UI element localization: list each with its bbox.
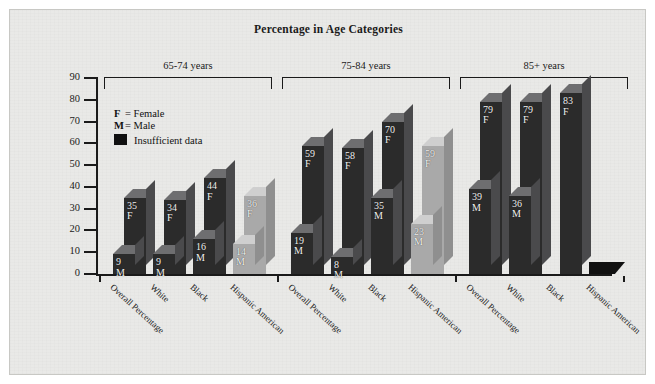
bar: 9M	[153, 245, 184, 274]
bar-value: 35	[374, 200, 384, 211]
y-tick	[84, 251, 96, 253]
bar-sex-marker: M	[334, 269, 343, 280]
bar-side-face	[313, 215, 322, 265]
bar-label: 23M	[414, 227, 424, 248]
bar-value: 16	[196, 241, 206, 252]
x-axis-label: Black	[188, 282, 210, 303]
bar-sex-marker: M	[116, 267, 125, 278]
bar-label: 9M	[156, 257, 165, 278]
bar-sex-marker: F	[523, 114, 529, 125]
x-tick	[99, 276, 101, 282]
bar-sex-marker: M	[156, 267, 165, 278]
bar-label: 83F	[563, 96, 573, 117]
x-axis-label: Black	[366, 282, 388, 303]
bar-sex-marker: M	[512, 208, 521, 219]
bar-value: 35	[127, 200, 137, 211]
bar-label: 79F	[523, 105, 533, 126]
bar-sex-marker: F	[385, 134, 391, 145]
bar-value: 39	[472, 191, 482, 202]
y-tick	[84, 186, 96, 188]
legend-row-male: M= Male	[114, 120, 202, 132]
x-axis-label: Hispanic American	[406, 282, 464, 336]
y-tick	[84, 208, 96, 210]
bar-label: 36F	[247, 199, 257, 220]
y-tick-label: 10	[58, 245, 80, 256]
bar-side-face	[324, 128, 333, 265]
y-axis-line	[96, 77, 98, 275]
bar-sex-marker: F	[425, 158, 431, 169]
x-axis-label: White	[148, 282, 171, 304]
bar-sex-marker: F	[305, 158, 311, 169]
bar-side-face	[491, 171, 500, 265]
bar-sex-marker: F	[127, 210, 133, 221]
y-tick-label: 50	[58, 158, 80, 169]
bar-label: 34F	[167, 203, 177, 224]
bar-label: 44F	[207, 181, 217, 202]
bar-side-face	[542, 84, 551, 265]
bar-label: 58F	[345, 151, 355, 172]
bar: 14M	[233, 235, 264, 274]
group-label: 75-84 years	[282, 60, 450, 71]
bar-value: 34	[167, 202, 177, 213]
bar-sex-marker: F	[483, 114, 489, 125]
bar-sex-marker: F	[345, 160, 351, 171]
bar: 23M	[411, 215, 442, 274]
legend-insufficient-label: Insufficient data	[134, 135, 202, 146]
bar: 8M	[331, 248, 362, 274]
bar-value: 59	[425, 148, 435, 159]
bar-sex-marker: F	[247, 208, 253, 219]
bar-label: 59F	[305, 149, 315, 170]
bar-front-face	[560, 93, 582, 274]
bar-side-face	[433, 206, 442, 265]
legend-row-female: F= Female	[114, 108, 202, 120]
bar-label: 8M	[334, 260, 343, 281]
y-tick-label: 60	[58, 136, 80, 147]
group-bracket	[460, 77, 628, 89]
bar-sex-marker: F	[167, 212, 173, 223]
y-tick	[84, 77, 96, 79]
y-tick	[84, 164, 96, 166]
chart-legend: F= Female M= Male Insufficient data	[114, 108, 202, 147]
legend-row-insufficient: Insufficient data	[114, 134, 202, 147]
y-tick-label: 90	[58, 71, 80, 82]
x-axis-label: White	[504, 282, 527, 304]
x-tick	[277, 276, 279, 282]
insufficient-data-marker	[589, 262, 625, 274]
legend-male-label: = Male	[125, 120, 155, 131]
bar-value: 44	[207, 180, 217, 191]
bar-side-face	[393, 180, 402, 265]
bar-side-face	[266, 178, 275, 265]
group-label: 85+ years	[460, 60, 628, 71]
bar-label: 35M	[374, 201, 384, 222]
bar-label: 36M	[512, 199, 522, 220]
bar-sex-marker: M	[414, 236, 423, 247]
legend-male-key: M	[114, 120, 125, 132]
y-tick-label: 20	[58, 223, 80, 234]
bar: 83F	[560, 84, 591, 274]
bar-side-face	[444, 128, 453, 265]
x-axis-line	[96, 274, 612, 276]
x-axis-label: Black	[544, 282, 566, 303]
bar-value: 70	[385, 124, 395, 135]
bar-sex-marker: M	[236, 256, 245, 267]
insufficient-data-swatch-icon	[114, 134, 127, 145]
y-tick-label: 80	[58, 93, 80, 104]
y-tick-label: 30	[58, 202, 80, 213]
y-tick	[84, 273, 96, 275]
bar-value: 23	[414, 226, 424, 237]
bar-label: 19M	[294, 236, 304, 257]
y-tick-label: 40	[58, 180, 80, 191]
bar-side-face	[215, 221, 224, 265]
bar-value: 8	[334, 259, 339, 270]
bar-value: 36	[247, 198, 257, 209]
bar-side-face	[531, 178, 540, 265]
bar-side-face	[582, 75, 591, 265]
bar-label: 14M	[236, 247, 246, 268]
bar-label: 39M	[472, 192, 482, 213]
bar-value: 79	[523, 104, 533, 115]
bar-value: 83	[563, 95, 573, 106]
bar-sex-marker: M	[196, 252, 205, 263]
bar: 35M	[371, 189, 402, 274]
y-tick	[84, 229, 96, 231]
bar-value: 79	[483, 104, 493, 115]
